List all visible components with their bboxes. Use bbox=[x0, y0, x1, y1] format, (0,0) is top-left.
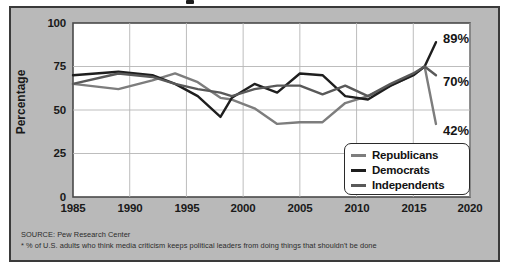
x-tick-2020: 2020 bbox=[447, 202, 493, 214]
legend-swatch-democrats bbox=[351, 169, 366, 172]
footnote-line: * % of U.S. adults who think media criti… bbox=[21, 241, 491, 252]
y-tick-50: 50 bbox=[32, 104, 66, 116]
end-label-democrats: 89% bbox=[443, 31, 469, 46]
legend-item-independents: Independents bbox=[351, 178, 469, 193]
x-tick-2000: 2000 bbox=[220, 202, 266, 214]
legend-swatch-independents bbox=[351, 184, 366, 187]
legend-label-democrats: Democrats bbox=[372, 165, 430, 177]
legend-swatch-republicans bbox=[351, 154, 366, 157]
legend-label-republicans: Republicans bbox=[372, 150, 438, 162]
source-block: SOURCE: Pew Research Center * % of U.S. … bbox=[21, 230, 491, 251]
x-tick-2005: 2005 bbox=[277, 202, 323, 214]
x-tick-1995: 1995 bbox=[164, 202, 210, 214]
y-tick-25: 25 bbox=[32, 147, 66, 159]
legend-item-republicans: Republicans bbox=[351, 148, 469, 163]
legend-label-independents: Independents bbox=[372, 180, 444, 192]
source-line: SOURCE: Pew Research Center bbox=[21, 230, 491, 241]
x-tick-2015: 2015 bbox=[391, 202, 437, 214]
end-label-republicans: 42% bbox=[443, 123, 469, 138]
y-tick-75: 75 bbox=[32, 60, 66, 72]
chart-legend: Republicans Democrats Independents bbox=[344, 143, 470, 195]
x-tick-2010: 2010 bbox=[334, 202, 380, 214]
chart-figure: 100 75 50 25 0 Percentage 1985 1990 1995… bbox=[0, 0, 509, 270]
legend-item-democrats: Democrats bbox=[351, 163, 469, 178]
end-label-independents: 70% bbox=[443, 74, 469, 89]
y-axis-label: Percentage bbox=[14, 57, 28, 147]
x-tick-1985: 1985 bbox=[50, 202, 96, 214]
y-tick-100: 100 bbox=[32, 17, 66, 29]
x-tick-1990: 1990 bbox=[107, 202, 153, 214]
